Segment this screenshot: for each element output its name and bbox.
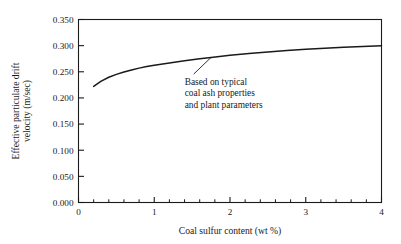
x-tick-label: 0 <box>76 207 81 217</box>
annotation-text-line: and plant parameters <box>185 100 263 110</box>
drift-velocity-line-chart: 01234 0.0000.0500.1000.1500.2000.2500.30… <box>0 0 401 244</box>
y-axis-title-line1: Effective particulate drift <box>10 62 21 159</box>
y-tick-label: 0.200 <box>53 93 74 103</box>
x-tick-label: 4 <box>379 207 384 217</box>
y-axis-title-line2: velocity (m/sec) <box>21 80 33 142</box>
y-tick-label: 0.350 <box>53 15 74 25</box>
x-tick-label: 3 <box>303 207 308 217</box>
y-tick-label: 0.250 <box>53 67 74 77</box>
annotation-text-line: Based on typical <box>185 77 248 87</box>
annotation-text-line: coal ash properties <box>185 88 256 98</box>
y-tick-label: 0.300 <box>53 41 74 51</box>
chart-figure: 01234 0.0000.0500.1000.1500.2000.2500.30… <box>0 0 401 244</box>
y-tick-label: 0.150 <box>53 119 74 129</box>
y-tick-label: 0.100 <box>53 146 74 156</box>
x-tick-label: 1 <box>152 207 157 217</box>
x-tick-label: 2 <box>228 207 233 217</box>
x-axis-title: Coal sulfur content (wt %) <box>179 225 281 237</box>
y-tick-label: 0.050 <box>53 172 74 182</box>
y-tick-label: 0.000 <box>53 198 74 208</box>
